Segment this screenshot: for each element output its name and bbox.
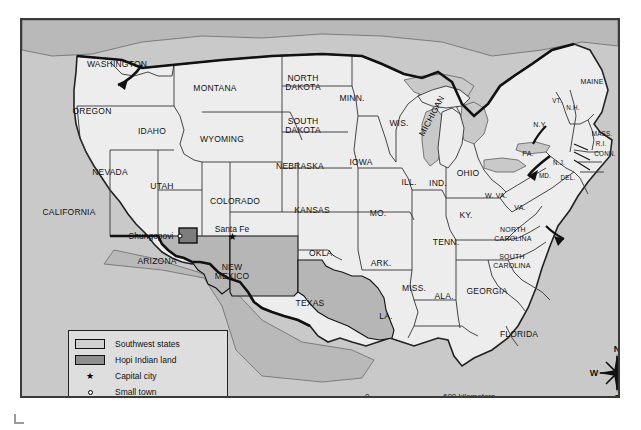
state-label-miss: MISS. (402, 284, 426, 293)
state-label-wyoming: WYOMING (200, 135, 244, 144)
state-label-md: MD. (539, 171, 551, 180)
state-label-n-h: N.H. (566, 103, 579, 112)
state-label-north-dakota: NORTHDAKOTA (285, 74, 321, 92)
state-label-georgia: GEORGIA (466, 287, 507, 296)
state-label-arizona: ARIZONA (137, 257, 176, 266)
state-label-california: CALIFORNIA (42, 208, 95, 217)
legend-label: Small town (115, 387, 157, 397)
state-label-wis: WIS. (389, 119, 408, 128)
state-label-washington: WASHINGTON (87, 60, 147, 69)
legend-item-hopi-land: Hopi Indian land (75, 352, 221, 368)
state-label-del: DEL. (561, 173, 576, 182)
legend-label: Capital city (115, 371, 157, 381)
state-label-n-j: N.J. (553, 158, 565, 167)
state-label-colorado: COLORADO (210, 197, 260, 206)
hopi-land-swatch (75, 355, 105, 365)
state-label-ohio: OHIO (457, 169, 480, 178)
legend-label: Southwest states (115, 339, 180, 349)
legend-item-capital-city: ★ Capital city (75, 368, 221, 384)
compass-west-label: W (590, 368, 599, 378)
state-label-pa: PA. (522, 149, 533, 158)
legend-label: Hopi Indian land (115, 355, 176, 365)
state-label-minn: MINN. (339, 94, 364, 103)
star-icon: ★ (75, 371, 105, 381)
state-label-montana: MONTANA (193, 84, 236, 93)
state-label-okla: OKLA. (309, 249, 335, 258)
state-label-ark: ARK. (371, 259, 392, 268)
state-label-conn: CONN. (594, 149, 615, 158)
capital-city-marker-santa-fe: ★ (228, 232, 237, 242)
state-label-w-va: W. VA. (485, 191, 507, 200)
legend-item-southwest-states: Southwest states (75, 336, 221, 352)
corner-mark (14, 414, 24, 424)
circle-icon (75, 387, 105, 397)
map-legend: Southwest states Hopi Indian land ★ Capi… (68, 330, 228, 398)
state-label-la: LA. (379, 312, 392, 321)
state-label-kansas: KANSAS (294, 206, 330, 215)
state-label-n-y: N.Y. (533, 120, 547, 129)
state-label-nevada: NEVADA (92, 168, 128, 177)
scale-km-end: 600 kilometers (443, 392, 495, 398)
state-label-ky: KY. (459, 211, 472, 220)
southwest-states-swatch (75, 339, 105, 349)
map-scale-bar: 0 600 kilometers 0 400 miles (365, 392, 495, 398)
state-label-south-dakota: SOUTHDAKOTA (285, 117, 321, 135)
compass-north-label: N (614, 344, 620, 354)
state-label-ala: ALA. (434, 292, 453, 301)
state-label-mass: MASS. (592, 129, 613, 138)
state-label-iowa: IOWA (349, 158, 372, 167)
state-label-va: VA. (514, 203, 525, 212)
state-label-ind: IND. (429, 179, 447, 188)
state-label-oregon: OREGON (73, 107, 112, 116)
scale-km-start: 0 (365, 392, 369, 398)
state-label-tenn: TENN. (433, 238, 460, 247)
small-town-marker-shungopovi (178, 234, 183, 239)
state-label-mo: MO. (370, 209, 387, 218)
legend-item-small-town: Small town (75, 384, 221, 398)
state-label-nebraska: NEBRASKA (276, 162, 324, 171)
state-label-texas: TEXAS (296, 299, 325, 308)
state-label-idaho: IDAHO (138, 127, 166, 136)
state-label-south-carolina: SOUTHCAROLINA (493, 252, 530, 270)
compass-south-label: S (614, 393, 620, 398)
state-label-vt: VT. (552, 96, 562, 105)
map-canvas: WASHINGTONOREGONIDAHOMONTANAWYOMINGNEVAD… (20, 18, 620, 398)
state-label-north-carolina: NORTHCAROLINA (494, 225, 531, 243)
state-label-new-mexico: NEWMEXICO (215, 263, 250, 281)
city-label-shungopovi: Shungopovi (129, 231, 174, 241)
state-label-ill: ILL. (402, 178, 417, 187)
compass-rose: N S E W (589, 342, 620, 398)
state-label-r-i: R.I. (596, 139, 607, 148)
state-label-florida: FLORIDA (500, 330, 538, 339)
state-label-utah: UTAH (150, 182, 173, 191)
map-page: The Southwest States (0, 0, 641, 430)
state-label-maine: MAINE (580, 77, 603, 86)
